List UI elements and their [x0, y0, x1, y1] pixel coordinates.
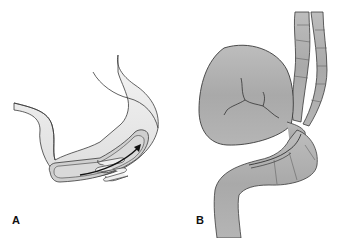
panel-b: B — [169, 0, 338, 238]
panel-label-a: A — [12, 214, 20, 226]
panel-label-b: B — [196, 214, 204, 226]
intussusception-illustration — [0, 0, 169, 238]
volvulus-illustration — [169, 0, 338, 238]
panel-a: A — [0, 0, 169, 238]
